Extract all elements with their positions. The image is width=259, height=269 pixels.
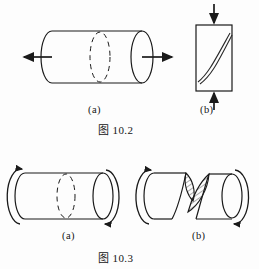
fig103-panel-a-torsion-cylinder bbox=[7, 169, 119, 224]
torque-arrow-right bbox=[105, 170, 119, 224]
fracture-surface-upper bbox=[185, 173, 194, 201]
fig103-panel-b-torsion-fracture bbox=[136, 170, 249, 224]
fig102-label-a: (a) bbox=[88, 104, 101, 115]
fig103-label-b: (b) bbox=[192, 230, 205, 241]
fig103-caption: 图 10.3 bbox=[98, 249, 133, 265]
fig102-panel-a-tension-cylinder bbox=[24, 31, 172, 83]
fig102-caption: 图 10.2 bbox=[98, 121, 133, 137]
fig103-label-a: (a) bbox=[62, 230, 75, 241]
figure-page: (a) (b) 图 10.2 (a) (b) 图 10.3 bbox=[0, 0, 259, 269]
fig102-panel-b-compression-block bbox=[196, 4, 232, 110]
fig102-label-b: (b) bbox=[200, 104, 213, 115]
